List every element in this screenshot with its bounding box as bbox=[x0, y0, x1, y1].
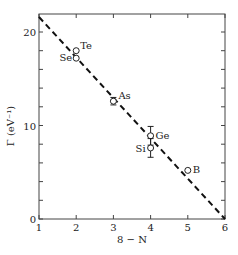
data-points: TeSeAsGeSiB bbox=[59, 40, 200, 176]
y-tick-label: 0 bbox=[30, 214, 36, 225]
point-label: As bbox=[117, 90, 130, 101]
data-point-te: Te bbox=[73, 40, 92, 54]
x-tick-label: 3 bbox=[110, 222, 116, 233]
circle-marker-icon bbox=[110, 98, 116, 104]
data-point-as: As bbox=[110, 90, 130, 105]
circle-marker-icon bbox=[73, 48, 79, 54]
point-label: Ge bbox=[156, 130, 170, 141]
point-label: Te bbox=[80, 40, 92, 51]
circle-marker-icon bbox=[185, 167, 191, 173]
x-tick-label: 2 bbox=[73, 222, 79, 233]
y-tick-label: 20 bbox=[23, 27, 36, 38]
data-point-si: Si bbox=[136, 139, 154, 158]
x-tick-label: 6 bbox=[222, 222, 228, 233]
y-axis-title: Γ (eV⁻¹) bbox=[5, 106, 16, 146]
point-label: B bbox=[193, 164, 200, 175]
x-axis-title: 8 − N bbox=[117, 234, 147, 245]
chart: 12345601020 TeSeAsGeSiB 8 − N Γ (eV⁻¹) bbox=[0, 0, 238, 255]
point-label: Se bbox=[59, 52, 72, 63]
fit-line bbox=[39, 17, 225, 219]
y-tick-label: 10 bbox=[23, 121, 36, 132]
circle-marker-icon bbox=[73, 55, 79, 61]
x-tick-label: 5 bbox=[185, 222, 191, 233]
point-label: Si bbox=[136, 143, 146, 154]
x-tick-label: 4 bbox=[147, 222, 153, 233]
data-point-b: B bbox=[185, 164, 200, 175]
x-tick-label: 1 bbox=[36, 222, 42, 233]
tick-labels: 12345601020 bbox=[23, 27, 228, 233]
circle-marker-icon bbox=[148, 133, 154, 139]
circle-marker-icon bbox=[148, 145, 154, 151]
